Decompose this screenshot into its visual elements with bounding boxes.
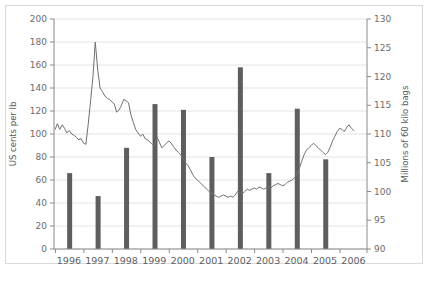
left-axis-tick-label: 160: [30, 60, 47, 70]
production-bar: [266, 173, 271, 249]
dual-axis-chart: 0204060801001201401601802009095100105110…: [0, 0, 428, 288]
right-axis-tick-label: 120: [374, 72, 391, 82]
right-axis-tick-label: 95: [374, 215, 385, 225]
x-axis-tick-label: 1998: [114, 255, 138, 266]
production-bar: [67, 173, 72, 249]
production-bar: [209, 157, 214, 249]
x-axis-tick-label: 1997: [85, 255, 109, 266]
chart-figure: 0204060801001201401601802009095100105110…: [0, 0, 428, 288]
x-axis-tick-label: 2002: [228, 255, 252, 266]
left-axis-tick-label: 0: [41, 244, 47, 254]
left-axis-tick-label: 120: [30, 106, 47, 116]
left-axis-tick-label: 80: [36, 152, 48, 162]
x-axis-tick-label: 2004: [284, 255, 308, 266]
right-axis-tick-label: 125: [374, 43, 391, 53]
left-axis-tick-label: 40: [36, 198, 48, 208]
left-axis-tick-label: 20: [36, 221, 48, 231]
x-axis-tick-label: 2001: [199, 255, 223, 266]
left-axis-tick-label: 200: [30, 14, 47, 24]
x-axis-tick-label: 2003: [256, 255, 280, 266]
right-axis-title: Millions of 60 kilo bags: [400, 85, 410, 182]
right-axis-tick-label: 100: [374, 187, 391, 197]
x-axis-tick-label: 1999: [142, 255, 166, 266]
left-axis-tick-label: 180: [30, 37, 47, 47]
production-bar: [153, 104, 158, 249]
left-axis-tick-label: 60: [36, 175, 48, 185]
production-bar: [96, 196, 101, 249]
left-axis-tick-label: 100: [30, 129, 47, 139]
production-bar: [181, 110, 186, 249]
plot-wrapper: 0204060801001201401601802009095100105110…: [0, 0, 428, 288]
x-axis-tick-label: 2000: [171, 255, 195, 266]
right-axis-tick-label: 90: [374, 244, 386, 254]
x-axis-tick-label: 2005: [313, 255, 337, 266]
production-bar: [238, 67, 243, 249]
production-bar: [124, 148, 129, 249]
left-axis-title: US cents per lb: [8, 102, 18, 167]
right-axis-tick-label: 105: [374, 158, 391, 168]
production-bar: [295, 109, 300, 249]
x-axis-tick-label: 1996: [57, 255, 81, 266]
x-axis-tick-label: 2006: [341, 255, 365, 266]
production-bar: [323, 159, 328, 249]
right-axis-tick-label: 130: [374, 14, 391, 24]
right-axis-tick-label: 110: [374, 129, 391, 139]
left-axis-tick-label: 140: [30, 83, 47, 93]
right-axis-tick-label: 115: [374, 100, 391, 110]
